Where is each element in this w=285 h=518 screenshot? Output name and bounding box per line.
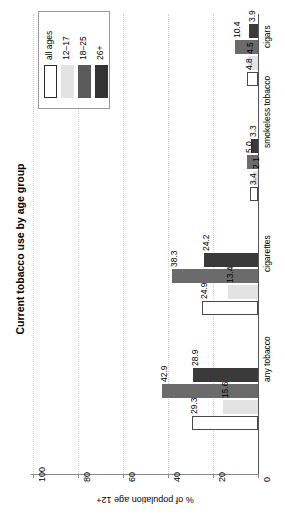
bar-any-tobacco-26plus <box>193 368 258 382</box>
bar-any-tobacco-all-ages <box>192 416 258 430</box>
value-label-cigars-26plus: 3.9 <box>247 10 257 22</box>
tick-mark-100 <box>33 474 34 478</box>
bar-cigarettes-26plus <box>204 253 259 267</box>
value-label-smokeless-26plus: 3.3 <box>248 125 258 137</box>
bar-cigarettes-12-17 <box>228 285 258 299</box>
bar-cigars-26plus <box>249 24 258 38</box>
tick-mark-80 <box>78 474 79 478</box>
category-label-smokeless-tobacco: smokeless tobacco <box>262 76 272 148</box>
chart-canvas: Current tobacco use by age group 100 80 … <box>0 0 285 518</box>
tick-label-100: 100 <box>37 467 47 482</box>
legend-label-all-ages: all ages <box>44 31 54 60</box>
legend-swatch-all-ages <box>44 65 57 98</box>
legend-swatch-12-17 <box>61 65 74 98</box>
tick-label-20: 20 <box>217 472 227 482</box>
legend-label-18-25: 18–25 <box>78 36 88 60</box>
value-label-any-tobacco-26plus: 28.9 <box>190 349 200 366</box>
value-label-cigars-18-25: 10.4 <box>232 21 242 38</box>
value-label-smokeless-all-ages: 3.4 <box>248 173 258 185</box>
value-axis-label: % of population age 12+ <box>55 495 235 505</box>
bar-any-tobacco-18-25 <box>162 384 259 398</box>
legend-label-26plus: 26+ <box>95 46 105 60</box>
bar-cigars-all-ages <box>247 72 258 86</box>
chart-legend: all ages 12–17 18–25 26+ <box>38 11 110 109</box>
legend-swatch-26plus <box>95 65 108 98</box>
value-label-cigars-12-17: 4.5 <box>245 42 255 54</box>
value-label-any-tobacco-12-17: 15.6 <box>220 381 230 398</box>
gridline-40 <box>168 14 169 474</box>
category-label-any-tobacco: any tobacco <box>262 336 272 382</box>
tick-mark-40 <box>168 474 169 478</box>
value-label-cigarettes-26plus: 24.2 <box>201 234 211 251</box>
tick-label-80: 80 <box>82 472 92 482</box>
tick-mark-0 <box>258 474 259 478</box>
category-label-cigars: cigars <box>262 25 272 48</box>
gridline-60 <box>123 14 124 474</box>
tick-label-40: 40 <box>172 472 182 482</box>
gridline-100 <box>33 14 34 474</box>
value-label-cigarettes-all-ages: 24.9 <box>199 282 209 299</box>
category-axis-line <box>258 14 259 474</box>
value-label-any-tobacco-18-25: 42.9 <box>159 365 169 382</box>
bar-smokeless-all-ages <box>250 187 258 201</box>
value-label-cigarettes-12-17: 13.4 <box>225 266 235 283</box>
tick-label-0: 0 <box>262 477 272 482</box>
tick-mark-60 <box>123 474 124 478</box>
bar-any-tobacco-12-17 <box>223 400 258 414</box>
chart-title: Current tobacco use by age group <box>14 119 26 379</box>
category-label-cigarettes: cigarettes <box>262 235 272 272</box>
tick-mark-20 <box>213 474 214 478</box>
value-label-any-tobacco-all-ages: 29.3 <box>189 397 199 414</box>
value-label-smokeless-18-25: 5.0 <box>244 141 254 153</box>
bar-cigarettes-18-25 <box>172 269 258 283</box>
bar-cigarettes-all-ages <box>202 301 258 315</box>
value-label-cigarettes-18-25: 38.3 <box>169 250 179 267</box>
legend-label-12-17: 12–17 <box>61 36 71 60</box>
gridline-20 <box>213 14 214 474</box>
value-label-cigars-all-ages: 4.8 <box>244 58 254 70</box>
legend-swatch-18-25 <box>78 65 91 98</box>
tick-label-60: 60 <box>127 472 137 482</box>
value-label-smokeless-12-17: 2.1 <box>251 157 261 169</box>
